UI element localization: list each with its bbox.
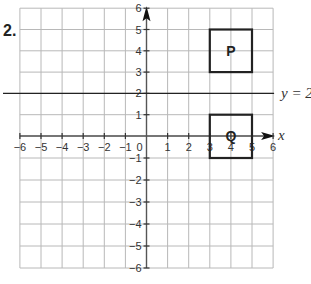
origin-label: 0 — [136, 141, 142, 153]
x-tick-label: 2 — [186, 141, 192, 153]
x-axis-label: x — [277, 127, 285, 143]
y-tick-label: −3 — [129, 196, 142, 208]
y-tick-label: −1 — [129, 152, 142, 164]
y-tick-label: 4 — [135, 45, 141, 57]
y-tick-label: 3 — [135, 66, 141, 78]
x-tick-label: −4 — [56, 141, 69, 153]
coordinate-grid: x −6−5−4−3−2−1123456654321−1−2−3−4−5−60 … — [0, 0, 311, 284]
y-tick-label: −6 — [129, 262, 142, 274]
tick-labels: −6−5−4−3−2−1123456654321−1−2−3−4−5−60 — [14, 2, 277, 274]
shape-label-q: Q — [225, 128, 236, 144]
y-tick-label: −5 — [129, 240, 142, 252]
x-tick-label: −3 — [77, 141, 90, 153]
x-tick-label: 1 — [165, 141, 171, 153]
x-tick-label: 6 — [270, 141, 276, 153]
axes: x — [20, 6, 285, 268]
y-tick-label: −4 — [129, 218, 142, 230]
question-number: 2. — [3, 22, 16, 40]
mirror-line-group: y = 2 — [3, 85, 311, 101]
x-tick-label: −6 — [14, 141, 27, 153]
shape-label-p: P — [226, 43, 235, 59]
mirror-line-label: y = 2 — [279, 85, 311, 101]
x-tick-label: −5 — [35, 141, 48, 153]
y-tick-label: −2 — [129, 174, 142, 186]
coordinate-diagram: 2. x −6−5−4−3−2−1123456654321−1−2−3−4−5−… — [0, 0, 311, 284]
y-tick-label: 6 — [135, 2, 141, 14]
x-tick-label: −2 — [98, 141, 111, 153]
y-tick-label: 5 — [135, 24, 141, 36]
y-tick-label: 1 — [135, 109, 141, 121]
